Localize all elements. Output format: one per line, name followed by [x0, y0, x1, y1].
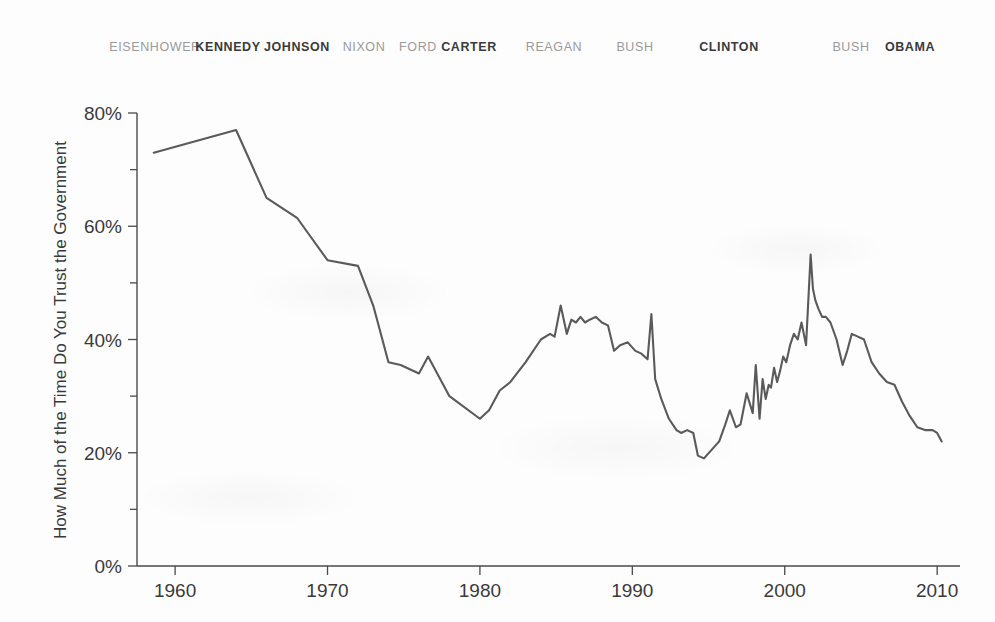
x-tick-label-1970: 1970 [306, 580, 348, 601]
y-axis-title: How Much of the Time Do You Trust the Go… [51, 141, 70, 539]
y-tick-label-40: 40% [84, 330, 122, 351]
x-tick-label-2010: 2010 [916, 580, 958, 601]
x-axis-ticks: 196019701980199020002010 [154, 566, 958, 601]
trust-series-line [154, 130, 942, 458]
plot-area: How Much of the Time Do You Trust the Go… [0, 0, 995, 622]
chart-figure: EISENHOWERKENNEDYJOHNSONNIXONFORDCARTERR… [0, 0, 995, 622]
y-tick-label-20: 20% [84, 443, 122, 464]
y-axis-ticks: 0%20%40%60%80% [84, 103, 137, 577]
trust-in-government-line-chart: How Much of the Time Do You Trust the Go… [0, 0, 995, 622]
y-tick-label-0: 0% [95, 556, 123, 577]
x-tick-label-1960: 1960 [154, 580, 196, 601]
x-tick-label-2000: 2000 [764, 580, 806, 601]
y-tick-label-60: 60% [84, 216, 122, 237]
x-tick-label-1980: 1980 [459, 580, 501, 601]
x-tick-label-1990: 1990 [611, 580, 653, 601]
y-tick-label-80: 80% [84, 103, 122, 124]
